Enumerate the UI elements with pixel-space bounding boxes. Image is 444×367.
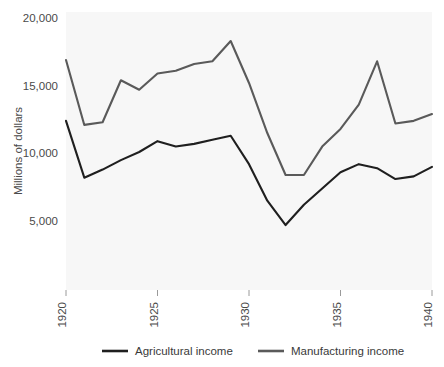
x-tick-label: 1935 (331, 302, 343, 328)
chart-figure: 5,00010,00015,00020,000 1920192519301935… (0, 0, 444, 367)
line-chart: 5,00010,00015,00020,000 1920192519301935… (0, 0, 444, 367)
y-tick-label: 20,000 (23, 12, 58, 24)
plot-background (66, 12, 432, 290)
x-tick-label: 1940 (422, 302, 434, 328)
y-tick-label: 10,000 (23, 147, 58, 159)
x-tick-label: 1920 (56, 302, 68, 328)
y-tick-label: 5,000 (29, 215, 58, 227)
legend-label: Manufacturing income (291, 345, 404, 357)
y-tick-label: 15,000 (23, 80, 58, 92)
x-tick-label: 1930 (239, 302, 251, 328)
x-tick-label: 1925 (148, 302, 160, 328)
y-axis-title: Millions of dollars (12, 107, 24, 195)
legend-label: Agricultural income (135, 345, 233, 357)
